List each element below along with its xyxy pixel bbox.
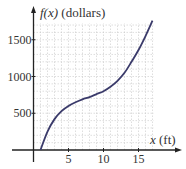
- x-axis-label: x (ft): [149, 132, 176, 147]
- chart: 5101550010001500 f(x) (dollars) x (ft): [0, 0, 186, 169]
- y-tick-label: 1500: [8, 33, 32, 47]
- y-axis-label: f(x) (dollars): [40, 5, 105, 20]
- grid-lines: [34, 24, 154, 150]
- tick-labels: 5101550010001500: [8, 33, 145, 166]
- x-tick-label: 5: [66, 152, 72, 166]
- y-axis-arrow-icon: [31, 6, 36, 13]
- x-tick-label: 10: [98, 152, 110, 166]
- y-tick-label: 500: [14, 106, 32, 120]
- x-axis-arrow-icon: [175, 148, 182, 153]
- y-tick-label: 1000: [8, 70, 32, 84]
- x-tick-label: 15: [133, 152, 145, 166]
